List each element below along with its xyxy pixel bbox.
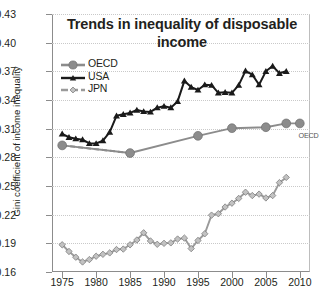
- data-point: [58, 141, 67, 150]
- data-point: [174, 98, 181, 104]
- data-point: [235, 82, 242, 88]
- y-tick-label-0.43: 0.43: [0, 8, 16, 20]
- data-point: [106, 129, 113, 135]
- series-line-oecd-dashed: [62, 145, 130, 153]
- data-point: [154, 241, 160, 247]
- legend-swatch-oecd-icon: [60, 57, 86, 69]
- series-layer: [52, 14, 310, 272]
- x-tick-label-2000: 2000: [220, 276, 243, 288]
- series-line-jpn: [62, 177, 286, 262]
- gini-inequality-chart: 0.430.400.370.340.310.280.250.220.190.16…: [0, 0, 330, 303]
- y-tick-label-0.16: 0.16: [0, 266, 16, 278]
- legend: OECDUSAJPN: [60, 57, 126, 95]
- x-tick-label-1975: 1975: [50, 276, 73, 288]
- legend-item-oecd[interactable]: OECD: [60, 57, 126, 70]
- data-point: [261, 123, 270, 132]
- data-point: [194, 131, 203, 140]
- legend-swatch-usa-icon: [60, 70, 86, 82]
- data-point: [107, 250, 113, 256]
- legend-label-usa: USA: [88, 70, 109, 82]
- x-tick-label-1990: 1990: [152, 276, 175, 288]
- legend-item-jpn[interactable]: JPN: [60, 82, 126, 95]
- data-point: [282, 119, 291, 128]
- oecd-edge-label: OECD: [299, 131, 319, 140]
- y-axis-title: Gini coefficient of income inequality: [11, 22, 22, 262]
- data-point: [86, 256, 92, 262]
- x-tick-label-2005: 2005: [254, 276, 277, 288]
- series-oecd: [58, 119, 304, 157]
- data-point: [181, 78, 188, 84]
- x-tick-label-1995: 1995: [186, 276, 209, 288]
- x-tick-label-2010: 2010: [288, 276, 311, 288]
- x-tick-label-1980: 1980: [84, 276, 107, 288]
- data-point: [59, 131, 66, 137]
- legend-swatch-jpn-icon: [60, 82, 86, 94]
- data-point: [113, 246, 119, 252]
- data-point: [249, 192, 255, 198]
- data-point: [228, 124, 237, 133]
- data-point: [269, 63, 276, 69]
- y-tick-mark: [46, 272, 52, 273]
- legend-label-oecd: OECD: [88, 57, 118, 69]
- data-point: [93, 253, 99, 259]
- legend-item-usa[interactable]: USA: [60, 70, 126, 83]
- data-point: [126, 149, 135, 158]
- x-tick-label-1985: 1985: [118, 276, 141, 288]
- legend-label-jpn: JPN: [88, 82, 107, 94]
- data-point: [161, 240, 167, 246]
- data-point: [100, 251, 106, 257]
- data-point: [242, 68, 249, 74]
- data-point: [295, 119, 304, 128]
- data-point: [208, 212, 214, 218]
- series-jpn: [59, 174, 289, 265]
